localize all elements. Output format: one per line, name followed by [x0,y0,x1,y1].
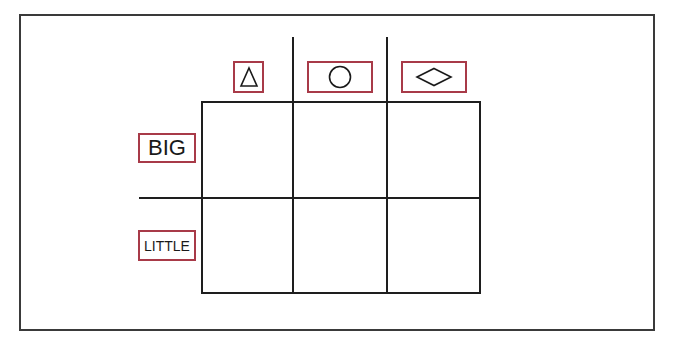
row-header-little: LITTLE [138,230,196,261]
row-label-little: LITTLE [144,238,190,254]
grid-bottom-border [201,292,481,294]
grid-cell-big-diamond [388,103,479,197]
column-header-circle [307,61,373,93]
row-label-big: BIG [148,135,186,161]
column-header-diamond [401,61,467,93]
grid-cell-little-diamond [388,199,479,292]
column-header-triangle [233,61,264,93]
triangle-icon [239,66,259,88]
circle-icon [328,65,352,89]
grid-cell-big-triangle [203,103,292,197]
diamond-icon [415,67,453,87]
grid-cell-big-circle [294,103,386,197]
grid-cell-little-triangle [203,199,292,292]
row-header-big: BIG [138,133,196,163]
grid-cell-little-circle [294,199,386,292]
